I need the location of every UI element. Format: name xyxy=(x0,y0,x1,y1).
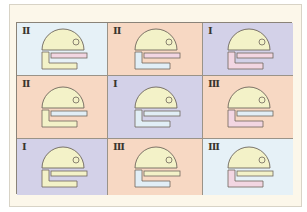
roman-numeral: III xyxy=(113,142,124,152)
grid-cell-r2c2: I xyxy=(108,76,203,139)
grid-cell-r1c2: II xyxy=(108,23,203,76)
grid-cell-r3c3: III xyxy=(203,139,293,195)
helmet-figure xyxy=(218,143,278,191)
helmet-figure xyxy=(32,25,92,73)
helmet-shape xyxy=(218,83,278,131)
helmet-figure xyxy=(218,83,278,131)
helmet-shape xyxy=(32,143,92,191)
grid-cell-r1c1: II xyxy=(17,23,108,76)
helmet-shape xyxy=(218,143,278,191)
roman-numeral: II xyxy=(113,26,120,36)
helmet-shape xyxy=(32,25,92,73)
helmet-shape xyxy=(125,25,185,73)
helmet-figure xyxy=(125,143,185,191)
figure-grid: II II I II I III I III III xyxy=(16,22,292,194)
helmet-shape xyxy=(218,25,278,73)
helmet-shape xyxy=(125,143,185,191)
roman-numeral: II xyxy=(22,79,29,89)
grid-cell-r2c3: III xyxy=(203,76,293,139)
grid-cell-r3c1: I xyxy=(17,139,108,195)
grid-cell-r2c1: II xyxy=(17,76,108,139)
helmet-figure xyxy=(32,143,92,191)
helmet-figure xyxy=(125,83,185,131)
helmet-figure xyxy=(125,25,185,73)
roman-numeral: I xyxy=(113,79,117,89)
helmet-figure xyxy=(32,83,92,131)
helmet-figure xyxy=(218,25,278,73)
grid-cell-r1c3: I xyxy=(203,23,293,76)
helmet-shape xyxy=(125,83,185,131)
roman-numeral: I xyxy=(22,142,26,152)
helmet-shape xyxy=(32,83,92,131)
roman-numeral: II xyxy=(22,26,29,36)
roman-numeral: I xyxy=(208,26,212,36)
grid-cell-r3c2: III xyxy=(108,139,203,195)
